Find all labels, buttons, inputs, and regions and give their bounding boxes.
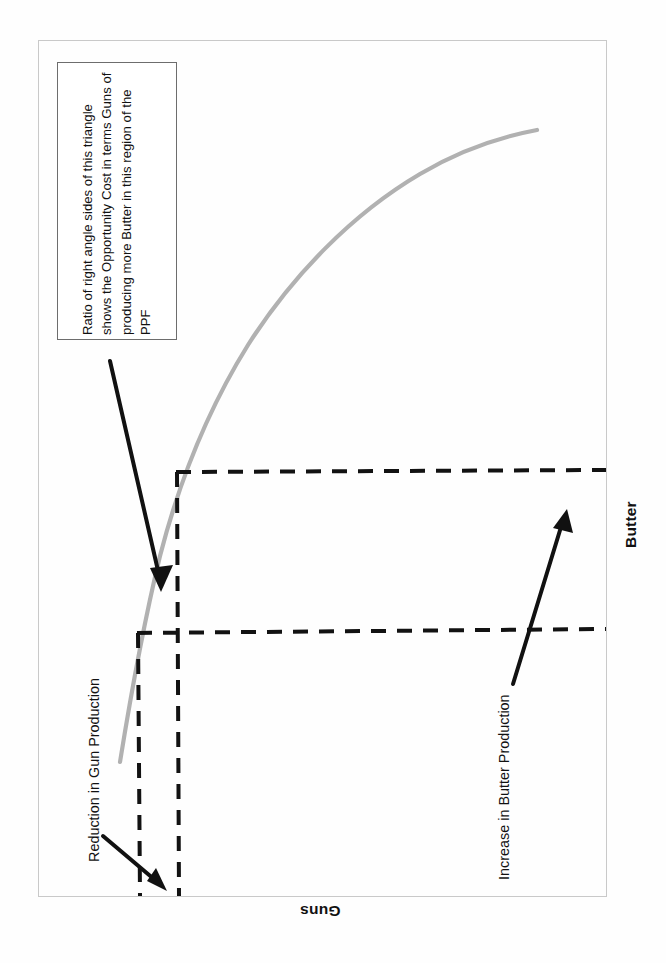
reduction-in-gun-production-label: Reduction in Gun Production [86,678,102,862]
scanned-figure: Ratio of right angle sides of this trian… [0,0,666,963]
opportunity-cost-callout-box: Ratio of right angle sides of this trian… [57,62,177,340]
axis-label-butter: Butter [622,501,640,548]
opportunity-cost-callout-text: Ratio of right angle sides of this trian… [78,67,155,335]
increase-in-butter-production-label: Increase in Butter Production [496,694,512,880]
axis-label-guns: Guns [300,902,340,920]
